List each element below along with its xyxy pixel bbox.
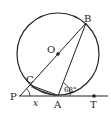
label-A: A (53, 99, 62, 110)
geometry-diagram: B O C P A T 68° x (0, 0, 111, 117)
angle-x-arc (27, 89, 30, 96)
point-T (92, 94, 96, 98)
chord-CA (30, 85, 57, 95)
label-P: P (10, 91, 17, 102)
label-T: T (90, 99, 97, 110)
label-angle-x: x (33, 98, 38, 108)
label-B: B (84, 13, 91, 24)
center-point-O (56, 52, 60, 56)
label-angle-68: 68° (64, 86, 76, 94)
label-O: O (47, 44, 55, 55)
chord-CA-inner (31, 87, 56, 96)
label-C: C (26, 74, 34, 85)
